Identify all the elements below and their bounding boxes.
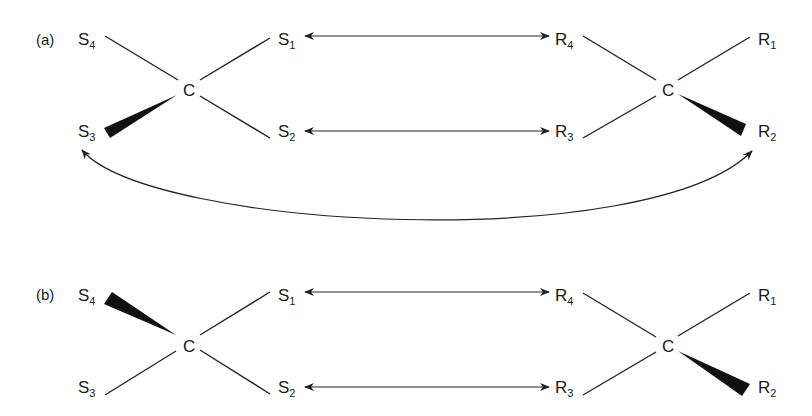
left-stereocenter-a: C S4 S1 S3 S2: [78, 30, 295, 143]
curved-arrow-s3-r2: [82, 150, 752, 220]
carbon-label: C: [183, 337, 195, 356]
carbon-label: C: [662, 337, 674, 356]
bond-r1: [678, 37, 750, 80]
stereochemistry-diagram: (a) C S4 S1 S3 S2 C R4 R1 R3 R2: [0, 0, 812, 416]
bond-r4: [583, 293, 656, 337]
panel-label-b: (b): [36, 286, 54, 303]
panel-label-a: (a): [36, 31, 54, 48]
right-stereocenter-a: C R4 R1 R3 R2: [555, 30, 776, 143]
substituent-s2: S2: [278, 378, 295, 399]
substituent-s2: S2: [278, 122, 295, 143]
substituent-r4: R4: [555, 286, 573, 307]
substituent-r2: R2: [758, 378, 776, 399]
bond-s2: [200, 96, 270, 138]
right-stereocenter-b: C R4 R1 R3 R2: [555, 286, 776, 399]
panel-a: (a) C S4 S1 S3 S2 C R4 R1 R3 R2: [36, 30, 776, 220]
substituent-r3: R3: [555, 122, 573, 143]
wedge-bond-r2: [678, 351, 750, 396]
wedge-bond-s4: [104, 292, 176, 335]
substituent-s3: S3: [78, 122, 95, 143]
wedge-bond-r2: [678, 94, 746, 136]
bond-r4: [583, 36, 656, 80]
bond-s4: [105, 36, 178, 80]
bond-s1: [200, 38, 270, 80]
bond-r3: [583, 96, 656, 138]
bond-r3: [583, 352, 656, 395]
substituent-r2: R2: [758, 122, 776, 143]
substituent-s1: S1: [278, 30, 295, 51]
bond-s3: [105, 351, 176, 395]
carbon-label: C: [183, 81, 195, 100]
substituent-r1: R1: [758, 286, 776, 307]
substituent-s3: S3: [78, 378, 95, 399]
carbon-label: C: [662, 81, 674, 100]
bond-s2: [200, 350, 270, 394]
panel-b: (b) C S4 S1 S3 S2 C R4 R1 R3 R2: [36, 286, 776, 399]
substituent-r1: R1: [758, 30, 776, 51]
left-stereocenter-b: C S4 S1 S3 S2: [78, 286, 295, 399]
substituent-r4: R4: [555, 30, 573, 51]
substituent-s1: S1: [278, 286, 295, 307]
wedge-bond-s3: [104, 95, 177, 138]
bond-s1: [200, 292, 270, 335]
substituent-r3: R3: [555, 378, 573, 399]
bond-r1: [678, 293, 750, 336]
substituent-s4: S4: [78, 286, 95, 307]
substituent-s4: S4: [78, 30, 95, 51]
